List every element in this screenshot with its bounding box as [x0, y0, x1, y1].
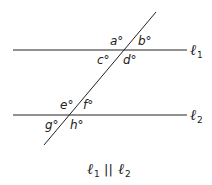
angle-e-label: e°: [60, 98, 73, 112]
angle-d-label: d°: [123, 53, 137, 67]
svg-text:ℓ: ℓ: [87, 160, 93, 178]
svg-text:1: 1: [197, 50, 203, 60]
line-l2-label: ℓ 2: [190, 106, 203, 125]
angle-g-label: g°: [45, 118, 59, 132]
angle-c-label: c°: [97, 53, 110, 67]
angle-h-label: h°: [70, 118, 84, 132]
svg-text:2: 2: [197, 115, 203, 125]
transversal: [44, 12, 156, 145]
angle-a-label: a°: [110, 34, 123, 48]
svg-text:2: 2: [125, 169, 131, 179]
svg-text:ℓ: ℓ: [190, 106, 196, 124]
svg-text:ℓ: ℓ: [190, 41, 196, 59]
parallel-lines-diagram: a° b° c° d° e° f° g° h° ℓ 1 ℓ 2 ℓ 1 || ℓ…: [0, 0, 212, 185]
angle-f-label: f°: [83, 98, 93, 112]
angle-b-label: b°: [138, 34, 152, 48]
svg-text:ℓ: ℓ: [118, 160, 124, 178]
line-l1-label: ℓ 1: [190, 41, 203, 60]
parallel-caption: ℓ 1 || ℓ 2: [87, 160, 131, 179]
svg-text:1: 1: [94, 169, 100, 179]
svg-text:||: ||: [104, 162, 113, 177]
